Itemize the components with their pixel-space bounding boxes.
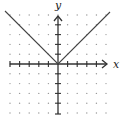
y-axis-label: y [54, 0, 62, 12]
graph: x y [0, 0, 128, 123]
x-axis-label: x [113, 58, 120, 71]
